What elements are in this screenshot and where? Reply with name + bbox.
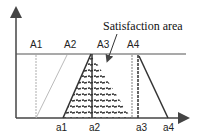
label-A4: A4 [127,40,139,50]
label-A2: A2 [64,40,76,50]
label-a3: a3 [136,123,147,133]
label-A3: A3 [97,40,109,50]
label-a2: a2 [89,123,100,133]
satisfaction-area [63,54,131,118]
a4-diagonal [139,56,168,118]
label-a4: a4 [163,123,174,133]
label-A1: A1 [30,40,42,50]
label-a1: a1 [56,123,67,133]
satisfaction-area-label: Satisfaction area [103,20,183,32]
a2-diagonal [36,55,67,118]
annotation-arrow [108,34,117,59]
